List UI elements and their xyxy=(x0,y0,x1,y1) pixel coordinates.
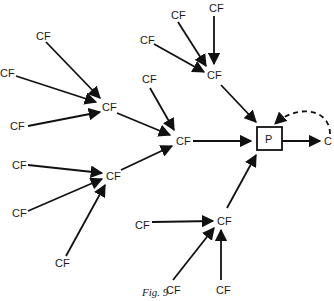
edge-h1-m xyxy=(117,113,170,135)
node-label: CF xyxy=(106,170,121,182)
edge-c1-h2 xyxy=(28,165,102,173)
edge-d2-h3 xyxy=(173,228,214,280)
node-label: CF xyxy=(216,284,231,296)
node-label: CF xyxy=(55,257,70,269)
edge-a2-h1 xyxy=(16,76,96,102)
node-label: CF xyxy=(0,67,15,79)
node-label: CF xyxy=(217,215,232,227)
feedback-network-diagram: CF CF CF CF CF CF CF CF CF CF CF CF CF C… xyxy=(0,0,334,301)
edge-b2-m xyxy=(150,88,174,130)
edge-d1-h3 xyxy=(152,221,213,222)
node-label: CF xyxy=(140,34,155,46)
node-label: CF xyxy=(135,219,150,231)
node-label: CF xyxy=(142,73,157,85)
node-label: CF xyxy=(12,159,27,171)
process-label: P xyxy=(265,133,272,145)
node-label: CF xyxy=(102,101,117,113)
node-label: CF xyxy=(209,2,224,14)
node-label: CF xyxy=(12,207,27,219)
output-label: C xyxy=(324,135,332,147)
feedback-arc xyxy=(275,111,330,134)
edge-a3-h1 xyxy=(28,112,100,126)
edge-c2-h2 xyxy=(28,179,102,211)
node-label: CF xyxy=(207,69,222,81)
node-label: CF xyxy=(10,120,25,132)
edge-t3-P xyxy=(221,85,256,122)
edge-h3-P xyxy=(227,155,256,208)
node-label: CF xyxy=(36,30,51,42)
edge-h2-m xyxy=(121,146,172,170)
figure-caption: Fig. 9 xyxy=(141,286,169,298)
edge-c3-h2 xyxy=(66,185,105,256)
node-label: CF xyxy=(171,9,186,21)
node-label: CF xyxy=(176,135,191,147)
edge-b1-t3 xyxy=(154,44,204,72)
edge-a1-h1 xyxy=(46,42,100,98)
